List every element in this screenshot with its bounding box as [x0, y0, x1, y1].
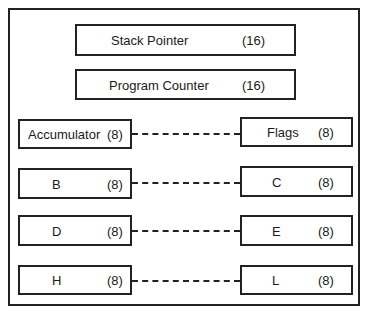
register-name: Program Counter	[109, 77, 209, 92]
register-width: (8)	[318, 273, 334, 288]
register-width: (8)	[318, 125, 334, 140]
pair-connector	[132, 230, 240, 232]
register-name: E	[272, 223, 281, 238]
register-name: Flags	[267, 125, 299, 140]
register-width: (16)	[242, 77, 265, 92]
register-d: D (8)	[18, 215, 132, 246]
register-width: (8)	[107, 127, 123, 142]
register-name: B	[52, 176, 61, 191]
register-b: B (8)	[18, 168, 132, 199]
register-name: L	[272, 273, 279, 288]
register-name: D	[52, 223, 61, 238]
register-name: C	[272, 174, 281, 189]
register-c: C (8)	[240, 166, 353, 197]
register-name: Stack Pointer	[111, 33, 188, 48]
pair-connector	[132, 280, 240, 282]
register-width: (8)	[107, 273, 123, 288]
pair-connector	[132, 133, 240, 135]
register-accumulator: Accumulator (8)	[18, 119, 132, 149]
register-program-counter: Program Counter (16)	[75, 69, 296, 100]
register-stack-pointer: Stack Pointer (16)	[75, 24, 296, 56]
register-h: H (8)	[18, 265, 132, 295]
register-name: H	[52, 273, 61, 288]
pair-connector	[132, 182, 240, 184]
register-width: (8)	[107, 223, 123, 238]
register-width: (16)	[242, 33, 265, 48]
register-flags: Flags (8)	[240, 117, 353, 147]
register-l: L (8)	[240, 265, 353, 295]
register-e: E (8)	[240, 215, 353, 246]
register-name: Accumulator	[28, 127, 100, 142]
register-width: (8)	[318, 174, 334, 189]
register-width: (8)	[107, 176, 123, 191]
register-width: (8)	[318, 223, 334, 238]
